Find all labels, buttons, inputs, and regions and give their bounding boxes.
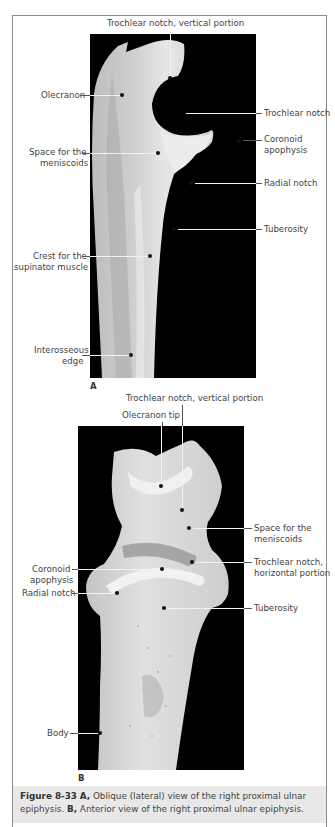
label-b-trochlear-vertical: Trochlear notch, vertical portion — [126, 393, 263, 404]
marker-tuberosity-b — [162, 606, 166, 610]
label-a-coronoid-1: Coronoid — [264, 134, 302, 145]
label-a-meniscoids-2: meniscoids — [40, 158, 88, 169]
marker-trochlear-horizontal-b — [190, 560, 194, 564]
label-a-interosseous-1: Interosseous — [34, 345, 89, 356]
caption-b-label: B, — [67, 804, 77, 814]
marker-radial-notch-a — [189, 181, 193, 185]
marker-crest-a — [148, 254, 152, 258]
label-b-radial-notch: Radial notch — [22, 588, 76, 599]
label-a-tuberosity: Tuberosity — [264, 224, 308, 235]
marker-interosseous-a — [129, 353, 133, 357]
label-b-meniscoids-2: meniscoids — [254, 534, 302, 545]
label-a-crest-2: supinator muscle — [14, 262, 88, 273]
label-a-interosseous-2: edge — [62, 356, 83, 367]
marker-coronoid-b — [160, 567, 164, 571]
label-a-coronoid-2: apophysis — [264, 145, 307, 156]
label-b-coronoid-2: apophysis — [30, 575, 73, 586]
label-b-olecranon-tip: Olecranon tip — [122, 410, 180, 421]
label-b-tuberosity: Tuberosity — [254, 603, 298, 614]
caption-b-text: Anterior view of the right proximal ulna… — [77, 804, 304, 814]
figure-caption: Figure 8-33 A, Oblique (lateral) view of… — [13, 786, 326, 823]
label-a-trochlear-notch: Trochlear notch — [264, 108, 330, 119]
caption-figure-label: Figure 8-33 — [20, 791, 77, 801]
label-b-trochlear-horizontal-1: Trochlear notch, — [254, 557, 323, 568]
marker-coronoid-a — [237, 139, 241, 143]
marker-tuberosity-a — [172, 227, 176, 231]
label-b-coronoid-1: Coronoid — [32, 564, 70, 575]
label-b-meniscoids-1: Space for the — [254, 523, 312, 534]
label-a-radial-notch: Radial notch — [264, 178, 318, 189]
marker-body-b — [98, 731, 102, 735]
label-a-trochlear-vertical: Trochlear notch, vertical portion — [107, 18, 244, 29]
label-b-trochlear-horizontal-2: horizontal portion — [254, 568, 330, 579]
panel-b-letter: B — [78, 773, 84, 783]
marker-radial-notch-b — [115, 591, 119, 595]
label-a-crest-1: Crest for the — [33, 251, 87, 262]
marker-meniscoids-a — [156, 151, 160, 155]
marker-meniscoids-b — [187, 526, 191, 530]
marker-olecranon — [120, 93, 124, 97]
label-b-body: Body — [47, 728, 69, 739]
label-a-olecranon: Olecranon — [41, 90, 85, 101]
label-a-meniscoids-1: Space for the — [29, 147, 87, 158]
ulna-lateral-image — [90, 34, 256, 378]
caption-a-label: A, — [80, 791, 90, 801]
photo-panel-a — [90, 34, 256, 378]
marker-trochlear-vertical-a — [168, 76, 172, 80]
marker-olecranon-tip — [159, 484, 163, 488]
marker-trochlear-vertical-b — [180, 508, 184, 512]
panel-a-letter: A — [90, 381, 97, 391]
